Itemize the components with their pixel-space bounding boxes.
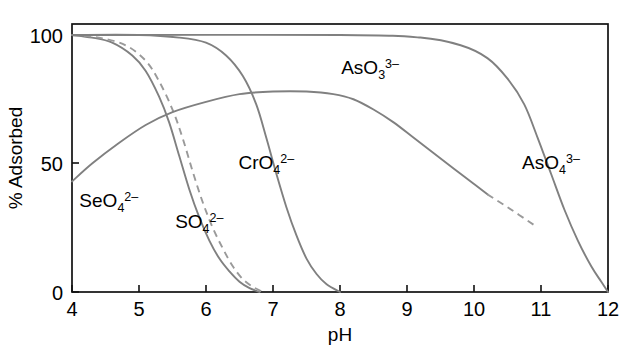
x-tick-label-5: 5 xyxy=(133,298,144,320)
y-tick-label-50: 50 xyxy=(41,153,63,175)
y-tick-label-100: 100 xyxy=(30,25,63,47)
x-tick-label-4: 4 xyxy=(66,298,77,320)
x-tick-label-11: 11 xyxy=(531,298,552,320)
y-axis-title: % Adsorbed xyxy=(5,107,26,209)
y-tick-label-0: 0 xyxy=(52,282,63,304)
x-axis-title: pH xyxy=(328,324,352,345)
chart-canvas: 4 5 6 7 8 9 10 11 12 100 50 0 pH % Adsor… xyxy=(0,0,637,362)
x-tick-label-7: 7 xyxy=(267,298,278,320)
x-tick-label-10: 10 xyxy=(463,298,485,320)
x-tick-label-9: 9 xyxy=(401,298,412,320)
x-tick-label-12: 12 xyxy=(597,298,619,320)
x-tick-label-8: 8 xyxy=(334,298,345,320)
x-tick-label-6: 6 xyxy=(200,298,211,320)
adsorption-edge-figure: 4 5 6 7 8 9 10 11 12 100 50 0 pH % Adsor… xyxy=(0,0,637,362)
